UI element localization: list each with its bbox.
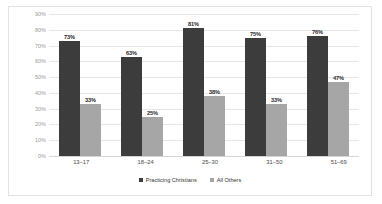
bar-value-label: 33% [85,97,96,103]
bar-slot: 25% [142,14,163,156]
chart-figure: 0%10%20%30%40%50%60%70%80%90% 73%33%63%2… [8,6,372,196]
y-axis-tick-label: 10% [35,137,46,143]
bar-value-label: 47% [333,75,344,81]
y-axis-tick-label: 80% [35,27,46,33]
bar-slot: 38% [204,14,225,156]
bar-value-label: 73% [64,34,75,40]
bar-slot: 33% [80,14,101,156]
bar-value-label: 25% [147,110,158,116]
legend-label: All Others [217,177,242,183]
bar-slot: 75% [245,14,266,156]
grid-region: 73%33%63%25%81%38%75%33%76%47% [49,14,359,156]
x-axis-tick-label: 13–17 [73,159,89,165]
y-axis-tick-label: 0% [38,153,46,159]
legend-item[interactable]: Practicing Christians [139,177,197,183]
plot-area: 0%10%20%30%40%50%60%70%80%90% 73%33%63%2… [23,14,359,156]
legend-swatch-icon [139,178,144,183]
legend-item[interactable]: All Others [210,177,242,183]
chart-legend: Practicing ChristiansAll Others [9,177,371,183]
legend-swatch-icon [210,178,215,183]
x-axis-tick-label: 25–30 [202,159,218,165]
bar[interactable] [80,104,101,156]
bar[interactable] [121,57,142,156]
y-axis-tick-label: 40% [35,90,46,96]
y-axis-tick-label: 90% [35,11,46,17]
y-axis-tick-label: 20% [35,121,46,127]
bar-slot: 73% [59,14,80,156]
y-axis: 0%10%20%30%40%50%60%70%80%90% [23,14,49,156]
bar[interactable] [328,82,349,156]
bar[interactable] [142,117,163,156]
bar-value-label: 76% [312,29,323,35]
bar-slot: 47% [328,14,349,156]
x-axis-tick-label: 31–50 [266,159,282,165]
bar-slot: 63% [121,14,142,156]
bar[interactable] [59,41,80,156]
bar-group: 75%33% [245,14,287,156]
y-axis-tick-label: 50% [35,74,46,80]
bar-group: 73%33% [59,14,101,156]
x-axis: 13–1718–2425–3031–5051–69 [49,159,371,171]
bar-value-label: 75% [250,31,261,37]
bar-slot: 76% [307,14,328,156]
bar[interactable] [183,28,204,156]
bar-value-label: 63% [126,50,137,56]
bar-slot: 81% [183,14,204,156]
bar-group: 81%38% [183,14,225,156]
bar-value-label: 33% [271,97,282,103]
bars-layer: 73%33%63%25%81%38%75%33%76%47% [49,14,359,156]
bar[interactable] [307,36,328,156]
bar-group: 63%25% [121,14,163,156]
bar[interactable] [245,38,266,156]
bar-group: 76%47% [307,14,349,156]
bar[interactable] [266,104,287,156]
y-axis-tick-label: 60% [35,58,46,64]
legend-label: Practicing Christians [146,177,197,183]
bar-value-label: 81% [188,21,199,27]
y-axis-tick-label: 30% [35,106,46,112]
bar-slot: 33% [266,14,287,156]
bar-value-label: 38% [209,89,220,95]
bar[interactable] [204,96,225,156]
axis-baseline [49,156,359,157]
x-axis-tick-label: 18–24 [138,159,154,165]
x-axis-tick-label: 51–69 [331,159,347,165]
y-axis-tick-label: 70% [35,43,46,49]
